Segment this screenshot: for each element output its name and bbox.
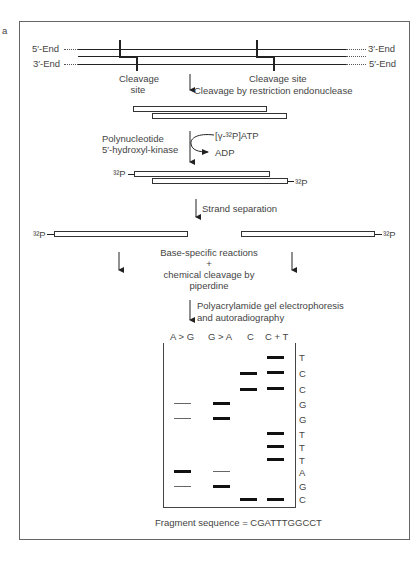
reaction-label-3: chemical cleavage by <box>0 269 418 280</box>
separated-strand-left <box>54 231 188 237</box>
label-right-tick <box>288 181 294 182</box>
seq-label: C <box>299 368 306 379</box>
seq-label: T <box>299 352 305 363</box>
band-c-1 <box>240 372 257 375</box>
kinase-enzyme-label-2: 5′-hydroxyl-kinase <box>102 144 178 155</box>
seq-label: T <box>299 442 305 453</box>
seq-label: G <box>299 414 306 425</box>
band-ct-5 <box>267 445 284 448</box>
labelled-top-strand <box>134 171 270 177</box>
band-c-2 <box>240 388 257 391</box>
reaction-label-4: piperdine <box>0 280 418 291</box>
label-right-32p: ³²P <box>295 177 308 188</box>
band-ct-7 <box>267 498 284 501</box>
seq-label: T <box>299 455 305 466</box>
seq-label: G <box>299 399 306 410</box>
band-c-3 <box>240 498 257 501</box>
strand-left-tick <box>47 234 54 235</box>
band-ag-1 <box>174 403 191 404</box>
fragment-top-strand <box>133 106 267 112</box>
seq-label: T <box>299 429 305 440</box>
band-ga-1 <box>213 402 230 405</box>
labelled-bottom-strand <box>152 178 288 184</box>
electrophoresis-label-2: and autoradiography <box>197 312 284 323</box>
strand-right-tick <box>375 234 382 235</box>
restriction-step-label: Cleavage by restriction endonuclease <box>194 85 352 96</box>
band-ga-2 <box>213 417 230 420</box>
reaction-label-1: Base-specific reactions <box>0 247 418 258</box>
seq-label: C <box>299 494 306 505</box>
adp-label: ADP <box>215 147 235 158</box>
band-ga-3 <box>213 471 230 472</box>
seq-label: C <box>299 384 306 395</box>
lane-header-c: C <box>247 331 254 342</box>
band-ct-6 <box>267 458 284 461</box>
strand-left-32p: ³²P <box>33 229 46 240</box>
seq-label: A <box>299 467 305 478</box>
band-ct-4 <box>267 432 284 435</box>
band-ct-1 <box>267 356 284 359</box>
gel-box <box>163 343 296 508</box>
reaction-label-2: + <box>0 258 418 269</box>
lane-header-ct: C + T <box>265 331 288 342</box>
band-ag-3 <box>174 470 191 473</box>
band-ag-2 <box>174 418 191 419</box>
seq-label: G <box>299 481 306 492</box>
band-ag-4 <box>174 486 191 487</box>
fragment-bottom-strand <box>152 113 287 119</box>
band-ct-2 <box>267 371 284 374</box>
band-ct-3 <box>267 387 284 390</box>
lane-header-ga: G > A <box>208 331 232 342</box>
separated-strand-right <box>241 231 375 237</box>
label-left-32p: ³²P <box>113 168 126 179</box>
electrophoresis-label-1: Polyacrylamide gel electrophoresis <box>197 300 344 311</box>
fragment-sequence-label: Fragment sequence = CGATTTGGCCT <box>155 517 322 528</box>
band-ga-4 <box>213 485 230 488</box>
strand-separation-label: Strand separation <box>202 203 277 214</box>
strand-right-32p: ³²P <box>383 229 396 240</box>
lane-header-ag: A > G <box>170 331 194 342</box>
kinase-enzyme-label-1: Polynucleotide <box>102 133 164 144</box>
atp-label: [γ-³²P]ATP <box>215 130 259 141</box>
